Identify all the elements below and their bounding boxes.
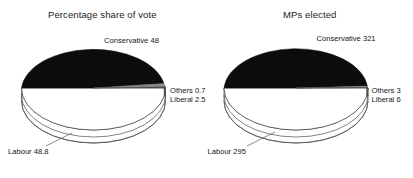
chart-panel-percentage-share-of-vote: Percentage share of vote [0,0,207,178]
label-conservative: Conservative 48 [104,36,159,45]
label-labour: Labour 295 [208,147,246,156]
pie-slice-conservative [22,49,165,88]
label-labour: Labour 48.8 [8,147,49,156]
pie-slice-conservative [224,49,367,88]
pie-depth-wall-right [366,88,367,96]
label-conservative: Conservative 321 [317,34,376,43]
label-liberal: Liberal 6 [372,95,401,104]
chart-panel-mps-elected: MPs elected Conservative 321 Others 3 Li… [207,0,413,178]
label-others: Others 0.7 [170,86,205,95]
label-others: Others 3 [372,86,401,95]
label-liberal: Liberal 2.5 [170,95,205,104]
pie-depth-wall-right [164,88,166,96]
pie-chart-figure: Percentage share of vote [0,0,413,178]
